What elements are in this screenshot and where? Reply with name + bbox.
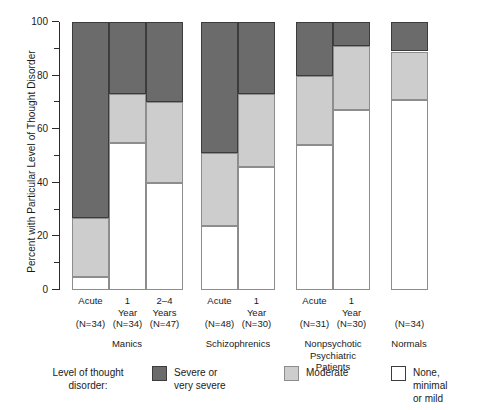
y-tick-10 <box>54 262 59 263</box>
segment-none-manics-acute <box>72 277 109 290</box>
legend-swatch-severe-icon <box>152 366 167 381</box>
y-tick-label-40: 40 <box>37 176 48 187</box>
legend-label-none: None, minimal or mild <box>413 366 474 405</box>
legend-swatch-none-icon <box>391 366 406 381</box>
y-tick-40: 40 <box>52 182 59 183</box>
segment-moderate-schizo-1year <box>238 94 275 166</box>
legend-label-moderate: Moderate <box>306 366 348 379</box>
legend-item-severe: Severe or very severe <box>152 366 226 392</box>
segment-moderate-manics-2to4years <box>146 102 183 182</box>
group-label-manics: Manics <box>72 338 182 350</box>
bar-manics-acute <box>72 22 109 290</box>
segment-severe-manics-1year <box>109 22 146 94</box>
bar-manics-1year <box>109 22 146 290</box>
thought-disorder-chart: Percent with Particular Level of Thought… <box>0 0 482 410</box>
y-tick-label-100: 100 <box>31 16 48 27</box>
legend-swatch-moderate-icon <box>284 366 299 381</box>
segment-moderate-nonpsych-acute <box>296 76 333 146</box>
segment-moderate-manics-acute <box>72 218 109 277</box>
bar-manics-2to4years <box>146 22 183 290</box>
x-label-n-normals: (N=34) <box>376 318 444 330</box>
y-tick-0: 0 <box>52 289 59 290</box>
group-label-schizophrenics: Schizophrenics <box>183 338 293 350</box>
segment-moderate-normals <box>391 52 428 100</box>
segment-none-normals <box>391 100 428 290</box>
y-tick-90 <box>54 48 59 49</box>
segment-severe-manics-acute <box>72 22 109 218</box>
y-tick-30 <box>54 209 59 210</box>
y-tick-label-60: 60 <box>37 123 48 134</box>
y-axis-line <box>59 22 60 290</box>
y-tick-label-80: 80 <box>37 69 48 80</box>
bar-nonpsych-acute <box>296 22 333 290</box>
segment-moderate-manics-1year <box>109 94 146 142</box>
segment-none-schizo-1year <box>238 167 275 290</box>
segment-moderate-schizo-acute <box>201 153 238 225</box>
segment-severe-schizo-acute <box>201 22 238 153</box>
segment-severe-normals <box>391 22 428 51</box>
x-label-normals: (N=34) <box>376 295 444 330</box>
y-tick-100: 100 <box>52 21 59 22</box>
y-tick-50 <box>54 155 59 156</box>
segment-moderate-nonpsych-1year <box>333 46 370 110</box>
y-tick-label-0: 0 <box>42 284 48 295</box>
y-tick-60: 60 <box>52 128 59 129</box>
y-axis-title: Percent with Particular Level of Thought… <box>26 27 37 297</box>
legend-title: Level of thought disorder: <box>34 366 142 392</box>
chart-legend: Level of thought disorder: Severe or ver… <box>34 364 474 404</box>
legend-item-moderate: Moderate <box>284 366 348 381</box>
group-label-normals: Normals <box>354 338 464 350</box>
y-tick-70 <box>54 101 59 102</box>
segment-none-manics-2to4years <box>146 183 183 290</box>
segment-none-schizo-acute <box>201 226 238 290</box>
segment-none-manics-1year <box>109 143 146 290</box>
bar-normals <box>391 22 428 290</box>
segment-severe-nonpsych-1year <box>333 22 370 46</box>
x-label-time-nonpsych-1year: 1 Year <box>342 295 361 318</box>
segment-severe-manics-2to4years <box>146 22 183 102</box>
segment-none-nonpsych-acute <box>296 145 333 290</box>
bar-nonpsych-1year <box>333 22 370 290</box>
y-tick-80: 80 <box>52 75 59 76</box>
plot-area: 100806040200 <box>59 22 469 290</box>
bar-schizo-acute <box>201 22 238 290</box>
x-label-time-manics-2to4years: 2–4 Years <box>153 295 177 318</box>
segment-severe-nonpsych-acute <box>296 22 333 76</box>
bar-schizo-1year <box>238 22 275 290</box>
y-tick-label-20: 20 <box>37 230 48 241</box>
x-label-time-schizo-1year: 1 Year <box>247 295 266 318</box>
y-tick-20: 20 <box>52 235 59 236</box>
segment-none-nonpsych-1year <box>333 110 370 290</box>
legend-item-none: None, minimal or mild <box>391 366 474 405</box>
legend-label-severe: Severe or very severe <box>174 366 226 392</box>
segment-severe-schizo-1year <box>238 22 275 94</box>
